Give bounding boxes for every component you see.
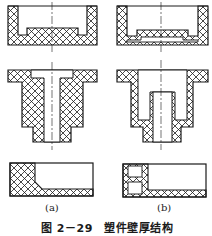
wall-thickness-diagram — [0, 0, 212, 236]
panel-a-middle-section — [8, 62, 97, 150]
panel-b-bottom-section — [123, 164, 206, 197]
panel-a-bottom-section — [10, 163, 93, 196]
panel-a-label: (a) — [45, 202, 59, 213]
panel-b-middle-section — [117, 60, 208, 150]
panel-b-top-section — [117, 2, 208, 52]
figure-caption-number: 图 2－29 — [41, 219, 93, 235]
panel-a-top-section — [8, 2, 97, 52]
panel-b-label: (b) — [157, 202, 171, 213]
figure-caption-title: 塑件壁厚结构 — [104, 219, 173, 235]
